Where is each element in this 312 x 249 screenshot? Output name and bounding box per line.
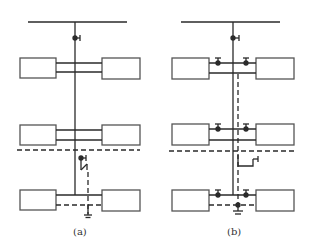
box-top-left [20, 58, 56, 78]
panel-a [17, 22, 140, 218]
box-mid-right [256, 124, 294, 145]
box-bot-left [20, 190, 56, 210]
box-top-right [256, 58, 294, 79]
box-top-left [172, 58, 209, 79]
panel-b [169, 22, 294, 214]
box-bot-left [172, 190, 209, 211]
box-mid-left [20, 125, 56, 145]
box-bot-right [102, 190, 140, 211]
box-top-right [102, 58, 140, 79]
box-mid-right [102, 125, 140, 145]
box-bot-right [256, 190, 294, 211]
panel-b-label: (b) [227, 226, 241, 237]
box-mid-left [172, 124, 209, 145]
switch-blade [81, 164, 87, 170]
bracket-switch [238, 155, 253, 166]
diagram-canvas: (a) [0, 0, 312, 249]
panel-a-label: (a) [73, 226, 87, 237]
